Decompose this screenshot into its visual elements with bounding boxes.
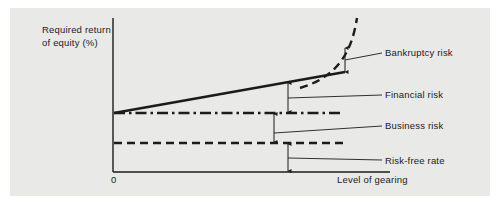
callout-label-risk-free-rate: Risk-free rate: [385, 155, 445, 166]
x-axis-label: Level of gearing: [337, 174, 408, 185]
annotation-business-risk: [274, 114, 382, 142]
y-axis-label-line2: of equity (%): [42, 37, 98, 48]
risk-free-rate-leader: [288, 158, 382, 160]
bankruptcy-risk-leader: [345, 53, 382, 60]
callout-label-business-risk: Business risk: [385, 120, 443, 131]
financial-risk-leader: [288, 95, 382, 98]
annotation-bankruptcy-risk: [345, 48, 382, 72]
callout-label-bankruptcy-risk: Bankruptcy risk: [385, 47, 453, 58]
axes-group: [113, 18, 390, 172]
origin-tick-label: 0: [111, 174, 116, 185]
business-risk-leader: [274, 126, 382, 133]
annotation-risk-free-rate: [288, 144, 382, 171]
callout-label-financial-risk: Financial risk: [385, 89, 443, 100]
y-axis-label-line1: Required return: [42, 24, 111, 35]
figure-container: Required return of equity (%) 0 Level of…: [0, 0, 498, 217]
required-return-solid-line: [114, 72, 345, 113]
